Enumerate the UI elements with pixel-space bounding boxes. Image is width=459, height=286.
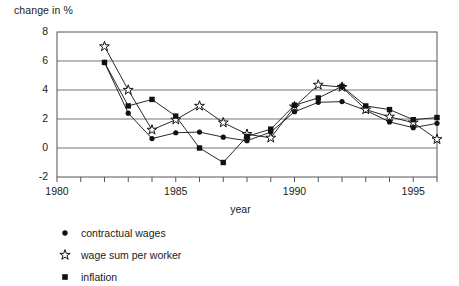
- data-point-circle: [197, 129, 202, 134]
- data-point-circle: [173, 130, 178, 135]
- data-point-star: [266, 133, 276, 142]
- chart-container: change in % 86420-2 1980198519901995 yea…: [0, 0, 459, 286]
- data-point-square: [434, 115, 439, 120]
- data-point-circle: [126, 111, 131, 116]
- data-point-square: [221, 160, 226, 165]
- legend-label: contractual wages: [81, 227, 166, 239]
- data-point-square: [102, 60, 107, 65]
- legend-item[interactable]: wage sum per worker: [54, 244, 181, 266]
- plot-frame: [57, 32, 437, 177]
- legend-item[interactable]: contractual wages: [54, 222, 181, 244]
- data-point-square: [316, 95, 321, 100]
- data-point-circle: [434, 121, 439, 126]
- legend-item[interactable]: inflation: [54, 266, 181, 286]
- data-point-square: [149, 97, 154, 102]
- x-axis-title: year: [0, 203, 459, 215]
- series-line-1: [105, 47, 438, 140]
- data-point-square: [126, 103, 131, 108]
- data-point-circle: [149, 136, 154, 141]
- data-point-square: [173, 113, 178, 118]
- data-point-circle: [339, 99, 344, 104]
- legend-label: inflation: [81, 271, 117, 283]
- legend-square-icon: [54, 270, 76, 284]
- data-point-star: [100, 41, 110, 50]
- data-point-star: [147, 125, 157, 134]
- data-point-square: [363, 103, 368, 108]
- legend-star-icon: [54, 248, 76, 262]
- data-point-square: [268, 126, 273, 131]
- data-point-square: [411, 117, 416, 122]
- series-line-2: [105, 62, 438, 162]
- data-point-star: [123, 85, 133, 94]
- data-point-square: [197, 145, 202, 150]
- data-point-square: [244, 134, 249, 139]
- data-point-square: [339, 84, 344, 89]
- data-point-circle: [221, 135, 226, 140]
- data-point-square: [292, 103, 297, 108]
- data-point-square: [387, 107, 392, 112]
- chart-legend: contractual wageswage sum per workerinfl…: [54, 222, 181, 286]
- legend-circle-icon: [54, 226, 76, 240]
- legend-label: wage sum per worker: [81, 249, 181, 261]
